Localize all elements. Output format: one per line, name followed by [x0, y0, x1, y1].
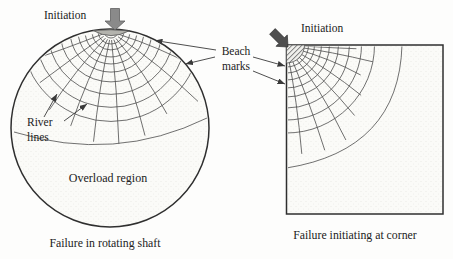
figure-drawing — [0, 0, 453, 259]
block-arrow-diagonal-icon — [270, 29, 288, 47]
beach-marks-label: Beach marks — [214, 44, 258, 73]
river-lines-label-line1: River — [27, 115, 53, 130]
fatigue-failure-figure: Initiation Initiation Beach marks River … — [0, 0, 453, 259]
beach-marks-label-line2: marks — [214, 59, 258, 74]
initiation-label-right: Initiation — [301, 21, 343, 36]
river-lines-label-line2: lines — [27, 130, 53, 145]
beach-marks-label-line1: Beach — [214, 44, 258, 59]
initiation-label-left: Initiation — [44, 8, 86, 23]
beach-marks-leader-left-2 — [186, 57, 216, 64]
block-arrow-down-icon — [105, 9, 125, 31]
river-lines-label: River lines — [27, 115, 53, 144]
overload-region-label: Overload region — [59, 171, 157, 186]
caption-rotating-shaft: Failure in rotating shaft — [25, 236, 185, 251]
caption-corner-initiation: Failure initiating at corner — [275, 228, 435, 243]
corner-initiation-panel — [270, 29, 443, 214]
